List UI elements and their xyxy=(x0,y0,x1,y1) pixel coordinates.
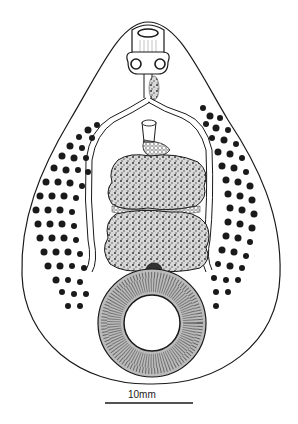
pharynx xyxy=(127,52,169,74)
acetabulum xyxy=(98,269,206,377)
fluke-illustration xyxy=(0,0,298,424)
anterior-testis xyxy=(108,155,206,210)
posterior-testis xyxy=(104,210,209,271)
oral-sucker xyxy=(132,25,164,56)
scale-bar-label: 10mm xyxy=(128,389,156,400)
gland xyxy=(149,76,159,100)
